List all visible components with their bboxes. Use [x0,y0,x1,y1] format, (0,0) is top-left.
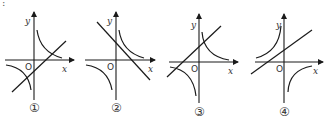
graph-label-3: ③ [194,105,205,119]
x-axis-label: x [62,64,67,74]
straight-line [12,41,66,92]
hyperbola-branch-q2 [256,26,281,58]
origin-label: O [276,64,283,74]
straight-line [97,22,150,80]
graph-1: y x O ① [5,12,74,115]
graph-label-4: ④ [279,105,290,119]
hyperbola-branch-q1 [37,30,62,58]
y-axis-label: y [24,16,31,26]
function-graphs-figure: : y x O ① y x O ② y x O ③ [0,0,325,127]
hyperbola-branch-q1 [202,32,229,60]
x-axis-label: x [148,64,153,74]
origin-label: O [25,62,32,72]
prefix-mark: : [2,0,5,8]
origin-label: O [191,64,198,74]
x-axis-label: x [228,66,233,76]
hyperbola-branch-q4 [288,66,312,92]
origin-label: O [107,62,114,72]
y-axis-label: y [106,16,113,26]
graph-3: y x O ③ [167,14,238,119]
graph-2: y x O ② [85,12,155,115]
hyperbola-branch-q1 [119,30,144,58]
y-axis-label: y [190,20,197,30]
graph-label-2: ② [111,101,122,115]
x-axis-label: x [313,66,318,76]
graph-label-1: ① [29,101,40,115]
graph-4: y x O ④ [251,14,323,119]
